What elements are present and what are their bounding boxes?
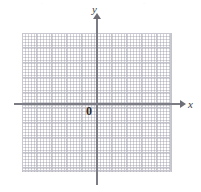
- x-axis-arrowhead: [180, 100, 186, 108]
- origin-label: 0: [86, 105, 92, 117]
- x-axis-line: [14, 103, 182, 105]
- scan-artifact-right: ·: [143, 1, 145, 7]
- y-axis-line: [96, 18, 98, 185]
- x-axis-label: x: [188, 99, 193, 110]
- scan-artifact-left: ·: [41, 1, 43, 7]
- y-axis-label: y: [92, 4, 97, 15]
- coordinate-plane-figure: · · y x 0: [0, 0, 201, 192]
